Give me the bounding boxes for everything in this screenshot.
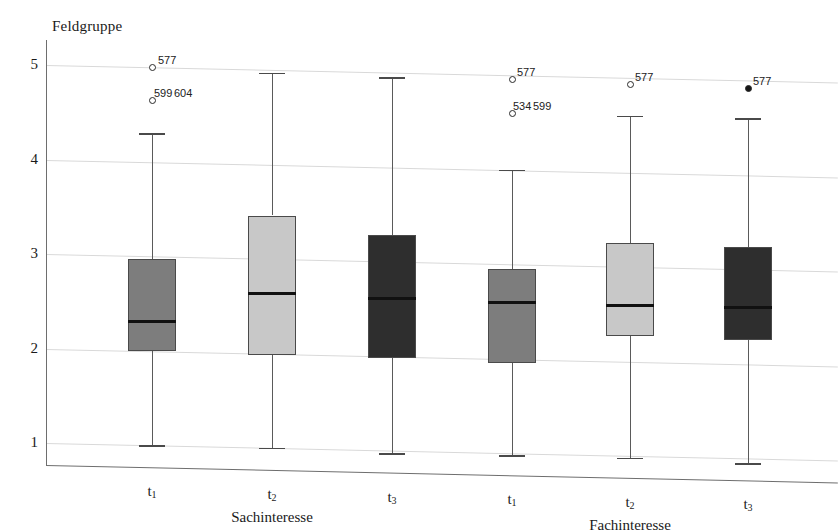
- group-label-fachinteresse: Fachinteresse: [550, 517, 710, 531]
- box-body: [488, 269, 536, 363]
- median-line: [368, 297, 416, 300]
- median-line: [606, 304, 654, 307]
- outlier-label: 577: [158, 54, 176, 66]
- gridline-2: [46, 349, 838, 367]
- y-axis-title: Feldgruppe: [52, 18, 122, 35]
- whisker-lower: [152, 351, 153, 446]
- group-label-sachinteresse: Sachinteresse: [192, 509, 352, 526]
- box-body: [724, 247, 772, 341]
- whisker-lower: [748, 340, 749, 463]
- ytick-label-3: 3: [12, 246, 38, 261]
- whisker-cap-lower: [139, 445, 165, 447]
- outlier-label: 604: [174, 87, 192, 99]
- outlier-point: [149, 64, 156, 71]
- xtick-label-fachinteresse-t1: t1: [492, 491, 532, 508]
- whisker-cap-lower: [735, 463, 761, 465]
- outlier-label: 577: [517, 66, 535, 78]
- whisker-upper: [748, 118, 749, 247]
- whisker-lower: [512, 363, 513, 456]
- xtick-label-fachinteresse-t3: t3: [728, 496, 768, 513]
- xtick-label-sachinteresse-t1: t1: [132, 483, 172, 500]
- ytick-label-2: 2: [12, 341, 38, 356]
- outlier-point: [509, 76, 516, 83]
- whisker-cap-lower: [617, 458, 643, 460]
- whisker-upper: [630, 116, 631, 244]
- whisker-upper: [512, 170, 513, 269]
- whisker-cap-upper: [617, 116, 643, 118]
- whisker-cap-upper: [379, 77, 405, 79]
- whisker-cap-upper: [139, 133, 165, 135]
- whisker-cap-upper: [735, 118, 761, 120]
- x-axis: [46, 465, 838, 483]
- median-line: [488, 301, 536, 304]
- boxplot-chart: Feldgruppe12345577599604t1t2t3577534599t…: [0, 0, 840, 531]
- median-line: [128, 320, 176, 323]
- outlier-label: 577: [753, 75, 771, 87]
- outlier-label: 599: [154, 87, 172, 99]
- whisker-upper: [392, 77, 393, 235]
- box-body: [128, 259, 176, 351]
- whisker-cap-lower: [499, 455, 525, 457]
- outlier-label: 534: [513, 100, 531, 112]
- box-body: [606, 243, 654, 336]
- gridline-5: [46, 65, 838, 83]
- gridline-4: [46, 160, 838, 178]
- whisker-upper: [272, 73, 273, 216]
- whisker-lower: [392, 358, 393, 453]
- median-line: [724, 306, 772, 309]
- whisker-cap-lower: [379, 453, 405, 455]
- xtick-label-fachinteresse-t2: t2: [610, 494, 650, 511]
- ytick-label-1: 1: [12, 435, 38, 450]
- outlier-point: [745, 85, 752, 92]
- outlier-point: [627, 81, 634, 88]
- outlier-label: 577: [635, 71, 653, 83]
- whisker-cap-upper: [259, 73, 285, 75]
- whisker-upper: [152, 133, 153, 259]
- ytick-label-4: 4: [12, 152, 38, 167]
- xtick-label-sachinteresse-t2: t2: [252, 486, 292, 503]
- whisker-lower: [630, 336, 631, 458]
- box-body: [248, 216, 296, 356]
- whisker-cap-upper: [499, 170, 525, 172]
- ytick-label-5: 5: [12, 57, 38, 72]
- whisker-lower: [272, 355, 273, 448]
- y-axis: [46, 40, 47, 466]
- whisker-cap-lower: [259, 448, 285, 450]
- median-line: [248, 292, 296, 295]
- outlier-label: 599: [533, 100, 551, 112]
- xtick-label-sachinteresse-t3: t3: [372, 489, 412, 506]
